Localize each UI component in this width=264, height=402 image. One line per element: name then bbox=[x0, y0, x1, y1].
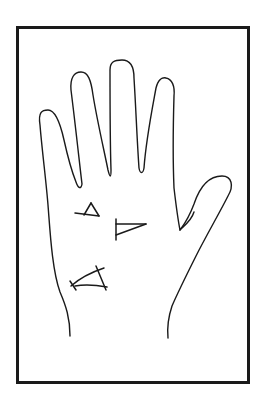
mark-3-stroke bbox=[75, 285, 107, 287]
mark-1-stroke bbox=[91, 203, 99, 216]
mark-1-stroke bbox=[84, 203, 91, 215]
mark-1-stroke bbox=[75, 213, 99, 216]
mark-2-stroke bbox=[116, 224, 146, 235]
hand-diagram bbox=[0, 0, 264, 402]
thumb-crease bbox=[180, 212, 194, 230]
hand-outline bbox=[39, 60, 231, 338]
mark-3-stroke bbox=[71, 268, 104, 286]
mark-3 bbox=[70, 266, 107, 290]
mark-2 bbox=[116, 219, 146, 240]
mark-1 bbox=[75, 203, 99, 216]
